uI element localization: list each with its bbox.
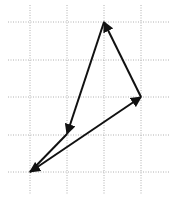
arrow-d-to-c [30,134,67,172]
arrow-a-to-d [67,22,104,134]
arrow-c-b [30,97,141,172]
arrow-b-to-a [104,22,141,97]
vector-diagram [0,0,178,200]
grid-lines [8,5,170,195]
